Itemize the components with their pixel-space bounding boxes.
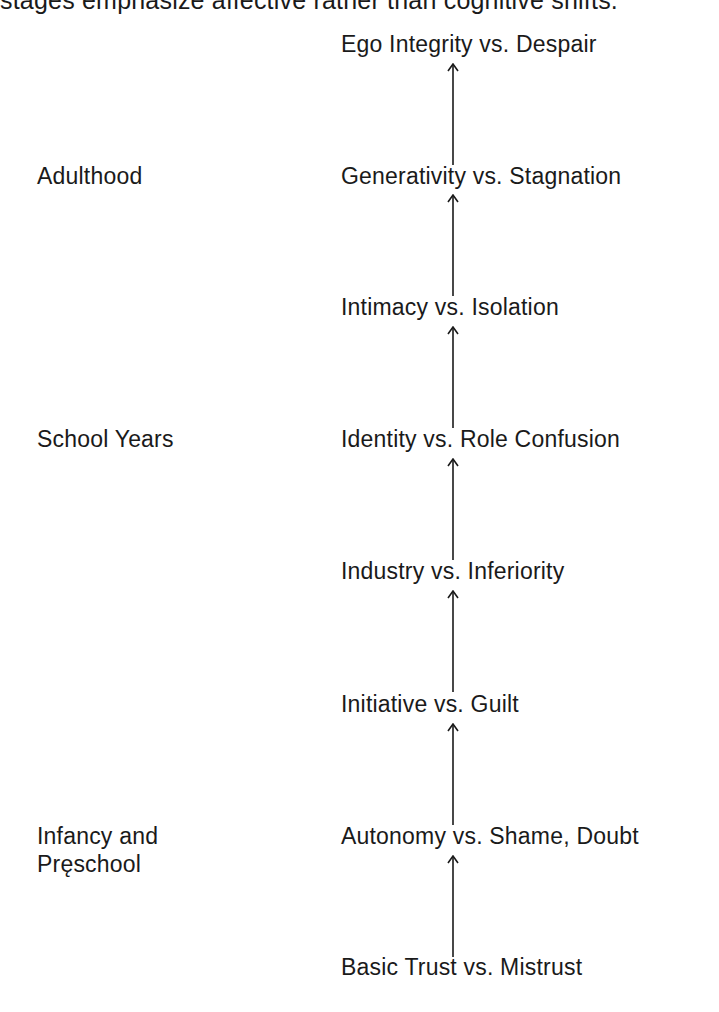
stage-basic-trust: Basic Trust vs. Mistrust xyxy=(341,953,582,981)
stage-identity: Identity vs. Role Confusion xyxy=(341,425,620,453)
stage-initiative: Initiative vs. Guilt xyxy=(341,690,519,718)
period-infancy-line2: Pręschool xyxy=(37,850,158,878)
stage-generativity: Generativity vs. Stagnation xyxy=(341,162,621,190)
period-infancy-line1: Infancy and xyxy=(37,822,158,850)
arrow-up-icon xyxy=(447,326,459,428)
stage-ego-integrity: Ego Integrity vs. Despair xyxy=(341,30,597,58)
intro-text: stages emphasize affective rather than c… xyxy=(0,0,618,16)
stage-intimacy: Intimacy vs. Isolation xyxy=(341,293,559,321)
arrow-up-icon xyxy=(447,590,459,692)
arrow-up-icon xyxy=(447,63,459,165)
stage-autonomy: Autonomy vs. Shame, Doubt xyxy=(341,822,639,850)
arrow-up-icon xyxy=(447,723,459,825)
period-adulthood: Adulthood xyxy=(37,162,142,190)
period-infancy-preschool: Infancy and Pręschool xyxy=(37,822,158,878)
period-school-years: School Years xyxy=(37,425,174,453)
stage-industry: Industry vs. Inferiority xyxy=(341,557,564,585)
arrow-up-icon xyxy=(447,855,459,957)
arrow-up-icon xyxy=(447,194,459,296)
arrow-up-icon xyxy=(447,458,459,560)
